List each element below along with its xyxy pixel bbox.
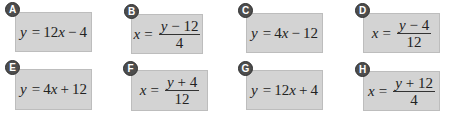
option-c-badge: C <box>238 3 253 18</box>
option-f-card[interactable]: x = y + 4 12 <box>131 70 208 111</box>
coefficient: 12 <box>43 24 58 41</box>
fraction: y + 12 4 <box>393 76 435 107</box>
rhs-variable: x <box>282 25 289 42</box>
coefficient: 4 <box>274 25 282 42</box>
option-d-card[interactable]: x = y − 4 12 <box>363 13 440 53</box>
operator: − <box>291 25 299 42</box>
numerator: y + 12 <box>393 76 435 92</box>
constant: 12 <box>303 25 318 42</box>
option-e-equation: y = 4x + 12 <box>20 81 87 98</box>
constant: 4 <box>79 24 87 41</box>
constant: 12 <box>72 81 87 98</box>
option-g-card[interactable]: y = 12x + 4 <box>246 70 323 110</box>
lhs-variable: x <box>140 82 147 99</box>
option-g-equation: y = 12x + 4 <box>251 82 318 99</box>
lhs-variable: x <box>134 26 141 43</box>
equals-sign: = <box>263 25 271 42</box>
numerator: y + 4 <box>165 75 199 91</box>
option-b-badge: B <box>124 4 139 19</box>
lhs-variable: y <box>20 81 27 98</box>
coefficient: 12 <box>274 82 289 99</box>
equals-sign: = <box>383 25 391 42</box>
option-c-card[interactable]: y = 4x − 12 <box>246 13 323 53</box>
operator: + <box>299 82 307 99</box>
equals-sign: = <box>32 81 40 98</box>
option-e-badge: E <box>5 60 20 75</box>
equals-sign: = <box>32 24 40 41</box>
denominator: 4 <box>176 35 184 50</box>
option-d-equation: x = y − 4 12 <box>372 18 431 49</box>
equals-sign: = <box>379 83 387 100</box>
option-c-equation: y = 4x − 12 <box>251 25 318 42</box>
lhs-variable: y <box>251 25 258 42</box>
option-g-badge: G <box>238 61 253 76</box>
fraction: y − 12 4 <box>159 19 201 50</box>
option-f-badge: F <box>123 61 138 76</box>
option-h-equation: x = y + 12 4 <box>368 76 435 107</box>
constant: 4 <box>310 82 318 99</box>
option-b-equation: x = y − 12 4 <box>134 19 201 50</box>
lhs-variable: y <box>20 24 27 41</box>
lhs-variable: x <box>372 25 379 42</box>
numerator: y − 4 <box>397 18 431 34</box>
denominator: 12 <box>407 34 422 49</box>
option-a-card[interactable]: y = 12x − 4 <box>15 12 92 52</box>
rhs-variable: x <box>58 24 65 41</box>
rhs-variable: x <box>51 81 58 98</box>
lhs-variable: y <box>251 82 258 99</box>
lhs-variable: x <box>368 83 375 100</box>
option-f-equation: x = y + 4 12 <box>140 75 199 106</box>
option-a-equation: y = 12x − 4 <box>20 24 87 41</box>
option-b-card[interactable]: x = y − 12 4 <box>131 14 203 54</box>
equals-sign: = <box>151 82 159 99</box>
equals-sign: = <box>263 82 271 99</box>
denominator: 4 <box>410 92 418 107</box>
fraction: y − 4 12 <box>397 18 431 49</box>
coefficient: 4 <box>43 81 51 98</box>
denominator: 12 <box>175 91 190 106</box>
option-a-badge: A <box>5 2 20 17</box>
option-e-card[interactable]: y = 4x + 12 <box>15 69 92 110</box>
equals-sign: = <box>144 26 152 43</box>
option-h-card[interactable]: x = y + 12 4 <box>363 71 440 111</box>
rhs-variable: x <box>289 82 296 99</box>
numerator: y − 12 <box>159 19 201 35</box>
fraction: y + 4 12 <box>165 75 199 106</box>
operator: − <box>68 24 76 41</box>
operator: + <box>60 81 68 98</box>
option-h-badge: H <box>355 62 370 77</box>
option-d-badge: D <box>355 3 370 18</box>
